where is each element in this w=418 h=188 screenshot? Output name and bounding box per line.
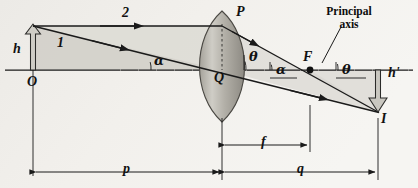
label-h-prime: h' [388, 66, 400, 80]
label-O: O [27, 75, 37, 89]
principal-axis-label-line2: axis [303, 18, 395, 31]
label-theta-left: θ [249, 50, 258, 63]
focal-point-dot [307, 67, 314, 74]
principal-axis-label: Principal axis [303, 5, 395, 31]
label-alpha-right: α [276, 63, 286, 76]
label-theta-right: θ [342, 63, 351, 76]
principal-axis-label-line1: Principal [303, 5, 395, 18]
label-F: F [303, 50, 312, 64]
label-P: P [236, 5, 245, 19]
label-alpha-left: α [154, 54, 164, 67]
dimension-label-f: f [261, 135, 266, 149]
label-Q: Q [214, 71, 224, 85]
dimension-label-q: q [297, 162, 304, 176]
dimension-label-p: p [123, 162, 130, 176]
lens-ray-diagram: h O 1 2 α P Q θ α F θ Principal axis h' … [0, 0, 418, 188]
label-ray-two: 2 [122, 6, 129, 20]
label-h: h [13, 42, 21, 56]
label-I: I [381, 112, 386, 126]
label-ray-one: 1 [57, 36, 64, 50]
